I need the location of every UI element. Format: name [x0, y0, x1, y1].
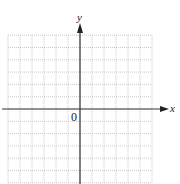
y-axis-label: y	[77, 12, 82, 23]
origin-label: 0	[71, 111, 77, 123]
coordinate-plane	[0, 0, 180, 184]
y-axis-arrow-icon	[77, 23, 83, 33]
x-axis-label: x	[170, 103, 175, 114]
x-axis-arrow-icon	[160, 106, 169, 112]
